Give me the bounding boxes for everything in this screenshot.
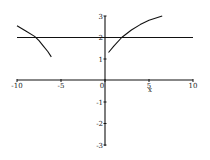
- x-ticks: -10-50510: [11, 79, 197, 90]
- y-tick-label: -1: [96, 99, 103, 107]
- x-tick-label: 0: [100, 82, 104, 90]
- curve-right-branch: [109, 16, 163, 53]
- y-tick-label: 1: [99, 56, 103, 64]
- y-tick-label: -3: [96, 142, 103, 150]
- x-tick-label: -10: [11, 82, 22, 90]
- function-plot: -10-50510 -3-2-1123 x: [0, 0, 210, 160]
- x-tick-label: 10: [189, 82, 198, 90]
- y-tick-label: -2: [96, 120, 103, 128]
- y-tick-label: 3: [99, 13, 103, 21]
- x-axis-label: x: [148, 86, 152, 94]
- curve-left-branch: [17, 26, 51, 57]
- x-tick-label: -5: [58, 82, 65, 90]
